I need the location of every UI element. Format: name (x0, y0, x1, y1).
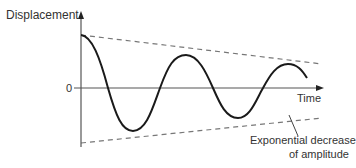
x-axis-label: Time (297, 92, 321, 104)
origin-label: 0 (66, 82, 72, 94)
damped-wave-curve (81, 35, 307, 131)
y-axis-label: Displacement (6, 9, 79, 21)
annotation-line-2: of amplitude (289, 148, 349, 160)
upper-envelope (81, 35, 322, 64)
annotation-line-1: Exponential decrease (250, 134, 356, 146)
x-axis-arrow-icon (316, 85, 324, 91)
annotation-pointer (289, 115, 298, 136)
